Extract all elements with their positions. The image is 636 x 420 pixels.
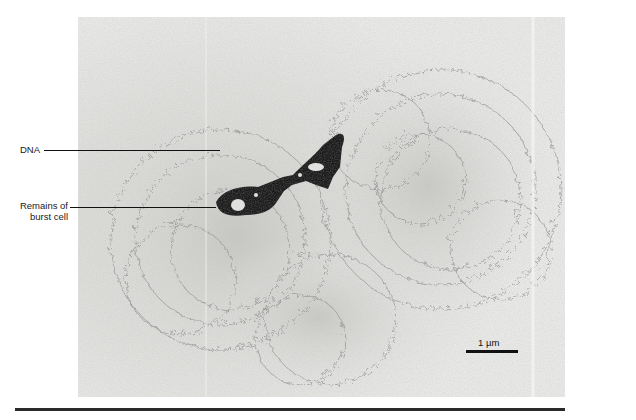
figure-bottom-rule bbox=[15, 408, 565, 411]
scale-bar-label: 1 µm bbox=[478, 337, 499, 348]
dna-leader-line bbox=[44, 150, 220, 151]
micrograph-figure: DNA Remains of burst cell 1 µm bbox=[0, 0, 636, 420]
remains-label: Remains of burst cell bbox=[8, 200, 68, 222]
scale-bar bbox=[466, 350, 518, 353]
remains-label-line1: Remains of bbox=[8, 200, 68, 211]
remains-label-line2: burst cell bbox=[8, 211, 68, 222]
remains-leader-line bbox=[70, 207, 216, 208]
dna-label: DNA bbox=[20, 144, 40, 155]
